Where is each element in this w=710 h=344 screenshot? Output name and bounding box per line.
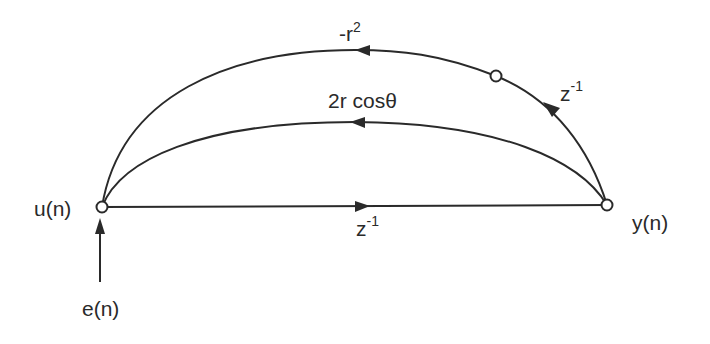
forward-delay-label: z-1 bbox=[356, 213, 379, 240]
delay-arc-arrow-icon bbox=[543, 102, 560, 117]
output-node bbox=[602, 200, 613, 211]
source-label: e(n) bbox=[82, 297, 119, 320]
outer-gain-sup: 2 bbox=[353, 19, 361, 35]
outer-gain-base: -r bbox=[339, 22, 353, 45]
outer-delay-label: z-1 bbox=[560, 78, 583, 105]
output-node-label: y(n) bbox=[632, 211, 668, 234]
outer-feedback-arc bbox=[102, 50, 607, 207]
forward-branch bbox=[102, 205, 607, 207]
delay-node bbox=[491, 71, 502, 82]
inner-gain-label: 2r cosθ bbox=[328, 89, 397, 112]
outer-gain-label: -r2 bbox=[339, 19, 361, 45]
outer-arc-arrow-icon bbox=[355, 45, 370, 56]
inner-feedback-arc bbox=[102, 122, 607, 207]
outer-delay-base: z bbox=[560, 82, 571, 105]
input-node-label: u(n) bbox=[34, 197, 71, 220]
input-node bbox=[97, 202, 108, 213]
forward-arrow-icon bbox=[355, 201, 370, 212]
inner-arc-arrow-icon bbox=[350, 117, 365, 128]
input-arrow-icon bbox=[95, 218, 105, 234]
outer-delay-sup: -1 bbox=[571, 78, 584, 94]
forward-delay-sup: -1 bbox=[367, 213, 380, 229]
forward-delay-base: z bbox=[356, 217, 367, 240]
signal-flow-graph: u(n) y(n) e(n) -r2 2r cosθ z-1 z-1 bbox=[0, 0, 710, 344]
